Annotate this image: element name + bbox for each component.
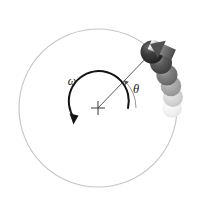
circular-motion-figure: ω θ [0,0,204,221]
figure-canvas: ω θ [0,0,204,221]
omega-label: ω [68,74,76,88]
omega-arc [69,71,129,118]
theta-label: θ [133,82,139,96]
omega-arrowhead [70,114,79,125]
omega-rotation-arrow [69,71,129,124]
radius-line [98,54,150,108]
